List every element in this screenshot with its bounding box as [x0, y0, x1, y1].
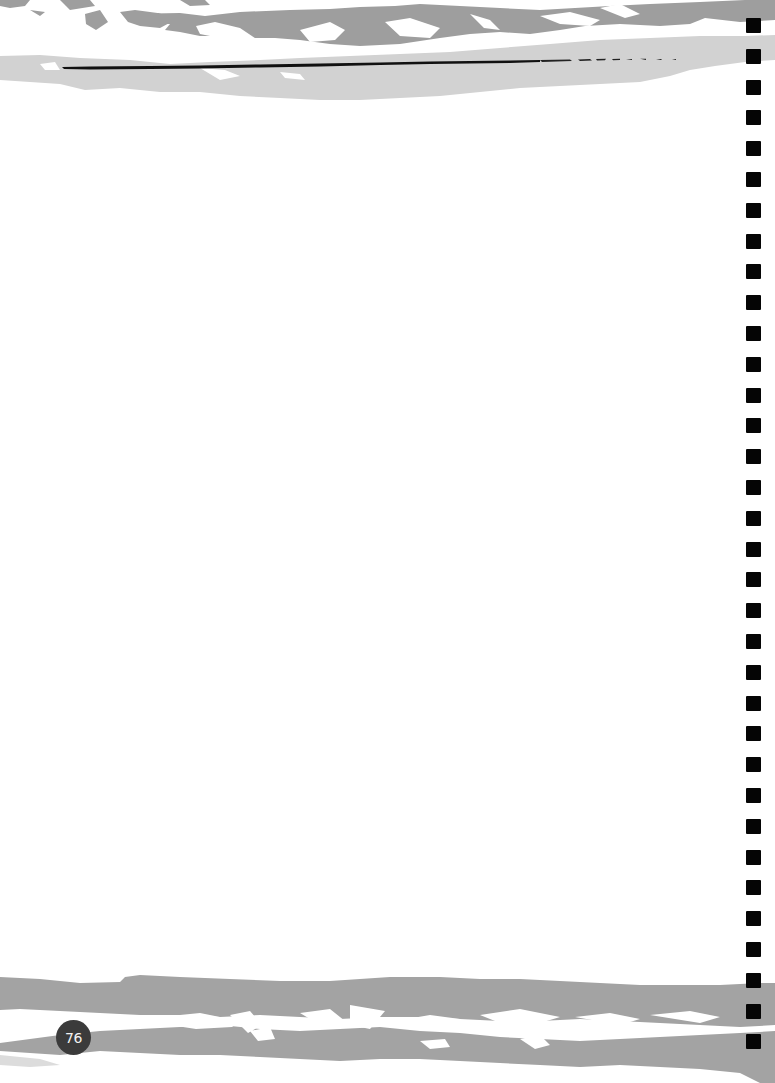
- brush-stroke-graphic: [0, 0, 775, 110]
- binder-hole: [746, 880, 761, 895]
- binder-hole: [746, 110, 761, 125]
- binder-hole: [746, 388, 761, 403]
- binder-holes: [746, 0, 762, 1083]
- binder-hole: [746, 973, 761, 988]
- brush-stroke-graphic-bottom: [0, 955, 775, 1083]
- page-number-badge: 76: [56, 1020, 91, 1055]
- page-number: 76: [65, 1030, 82, 1046]
- notebook-page: 76: [0, 0, 775, 1083]
- bottom-brush-band: [0, 955, 775, 1083]
- binder-hole: [746, 696, 761, 711]
- binder-hole: [746, 18, 761, 33]
- binder-hole: [746, 80, 761, 95]
- binder-hole: [746, 726, 761, 741]
- binder-hole: [746, 141, 761, 156]
- binder-hole: [746, 172, 761, 187]
- binder-hole: [746, 634, 761, 649]
- binder-hole: [746, 788, 761, 803]
- binder-hole: [746, 757, 761, 772]
- page-content-area: [30, 120, 720, 950]
- binder-hole: [746, 572, 761, 587]
- binder-hole: [746, 203, 761, 218]
- binder-hole: [746, 234, 761, 249]
- binder-hole: [746, 449, 761, 464]
- binder-hole: [746, 418, 761, 433]
- binder-hole: [746, 264, 761, 279]
- binder-hole: [746, 819, 761, 834]
- binder-hole: [746, 49, 761, 64]
- binder-hole: [746, 603, 761, 618]
- binder-hole: [746, 911, 761, 926]
- binder-hole: [746, 480, 761, 495]
- binder-hole: [746, 1004, 761, 1019]
- binder-hole: [746, 665, 761, 680]
- binder-hole: [746, 326, 761, 341]
- binder-hole: [746, 511, 761, 526]
- binder-hole: [746, 357, 761, 372]
- binder-hole: [746, 850, 761, 865]
- top-brush-band: [0, 0, 775, 110]
- binder-hole: [746, 942, 761, 957]
- binder-hole: [746, 295, 761, 310]
- binder-hole: [746, 1034, 761, 1049]
- binder-hole: [746, 542, 761, 557]
